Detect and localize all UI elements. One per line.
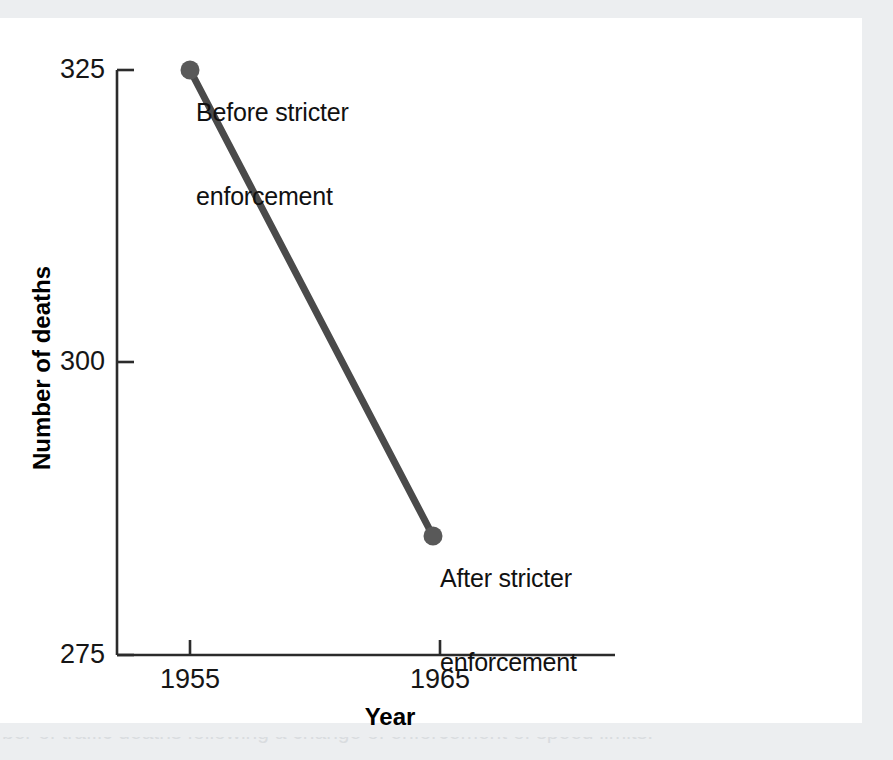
- y-tick-label-275: 275: [20, 639, 105, 669]
- annotation-before-line-2: enforcement: [196, 182, 349, 210]
- figure-card: 325 300 275 1955 1965 Year Number of dea…: [0, 18, 862, 723]
- y-axis-title: Number of deaths: [28, 266, 56, 470]
- page-root: 325 300 275 1955 1965 Year Number of dea…: [0, 0, 893, 760]
- annotation-after-line-2: enforcement: [440, 648, 577, 676]
- annotation-after-stricter-enforcement: After stricter enforcement: [440, 508, 577, 732]
- y-tick-label-325: 325: [20, 54, 105, 84]
- y-axis-title-wrapper: Number of deaths: [16, 248, 68, 488]
- annotation-after-line-1: After stricter: [440, 564, 577, 592]
- annotation-before-line-1: Before stricter: [196, 98, 349, 126]
- clipped-caption-text: ber of traffic deaths following a change…: [0, 737, 893, 760]
- clipped-caption-line: ber of traffic deaths following a change…: [2, 737, 653, 744]
- annotation-before-stricter-enforcement: Before stricter enforcement: [196, 42, 349, 266]
- x-tick-label-1955: 1955: [130, 664, 250, 694]
- slope-chart-plot: [0, 18, 862, 723]
